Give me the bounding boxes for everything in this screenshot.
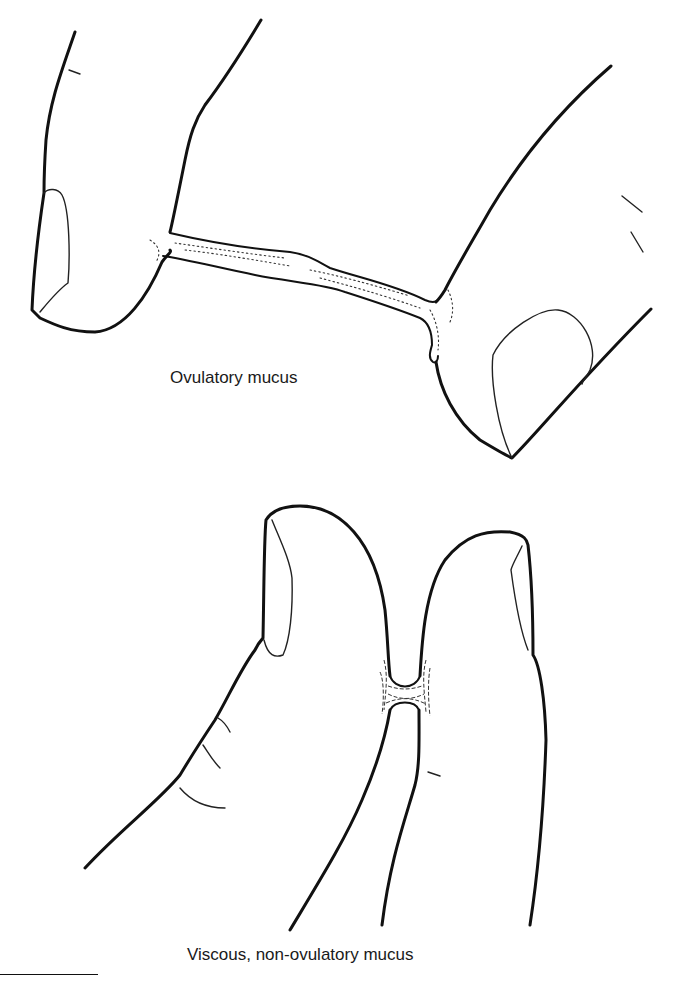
mucus-strand-lower-edge (163, 256, 438, 363)
skin-crease-mark (203, 745, 220, 768)
top-panel-drawing (32, 20, 651, 458)
right-finger-inner-contour (382, 710, 419, 925)
left-finger-outline (85, 506, 390, 868)
left-finger-inner-contour (290, 710, 390, 930)
mucus-bridge-bottom-curve (390, 703, 419, 711)
mucus-strand-texture (150, 240, 453, 350)
left-finger-outline-right (170, 20, 261, 232)
mucus-bridge-texture (380, 660, 430, 716)
mucus-bridge-top-curve (390, 676, 420, 687)
right-finger-outline (420, 532, 546, 925)
right-finger-outline-top (436, 66, 611, 302)
skin-crease-mark (180, 788, 225, 808)
bottom-panel-drawing (85, 506, 546, 930)
skin-crease-mark (631, 232, 643, 252)
skin-crease-mark (69, 70, 80, 74)
left-fingernail (40, 189, 69, 312)
right-fingernail (511, 546, 528, 650)
caption-viscous-mucus: Viscous, non-ovulatory mucus (187, 945, 413, 965)
skin-crease-mark (428, 772, 440, 776)
right-finger-outline-bottom (436, 309, 651, 458)
mucus-strand-upper-edge (170, 233, 438, 302)
caption-ovulatory-mucus: Ovulatory mucus (170, 368, 298, 388)
left-fingernail (264, 520, 292, 656)
illustration (0, 0, 688, 983)
footnote-rule (0, 974, 98, 975)
skin-crease-mark (218, 718, 230, 732)
left-finger-outline (32, 32, 171, 332)
right-fingernail (492, 310, 592, 458)
skin-crease-mark (622, 196, 642, 212)
